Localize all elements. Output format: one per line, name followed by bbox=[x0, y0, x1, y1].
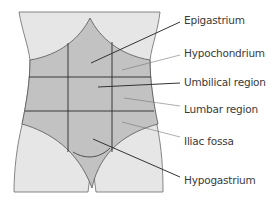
label-iliac-fossa: Iliac fossa bbox=[184, 135, 234, 147]
abdominal-regions-diagram: Epigastrium Hypochondrium Umbilical regi… bbox=[0, 0, 275, 222]
label-hypogastrium: Hypogastrium bbox=[184, 174, 256, 186]
label-hypochondrium: Hypochondrium bbox=[184, 47, 265, 59]
label-epigastrium: Epigastrium bbox=[184, 14, 245, 26]
label-umbilical-region: Umbilical region bbox=[184, 76, 266, 88]
label-lumbar-region: Lumbar region bbox=[184, 103, 258, 115]
